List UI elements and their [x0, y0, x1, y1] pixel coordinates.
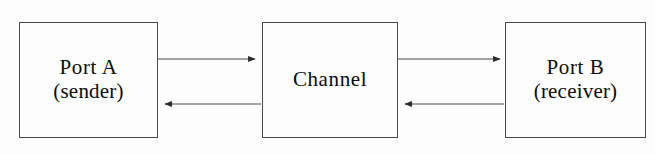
node-port-b-secondary-label: (receiver)	[534, 80, 618, 104]
node-port-b-primary-label: Port B	[547, 56, 605, 80]
node-channel-primary-label: Channel	[293, 68, 367, 92]
node-port-a-secondary-label: (sender)	[53, 80, 123, 104]
node-port-b: Port B (receiver)	[505, 22, 646, 138]
node-port-a-primary-label: Port A	[60, 56, 118, 80]
node-channel: Channel	[262, 22, 398, 138]
node-port-a: Port A (sender)	[19, 22, 158, 138]
diagram-canvas: Port A (sender) Channel Port B (receiver…	[0, 0, 655, 154]
